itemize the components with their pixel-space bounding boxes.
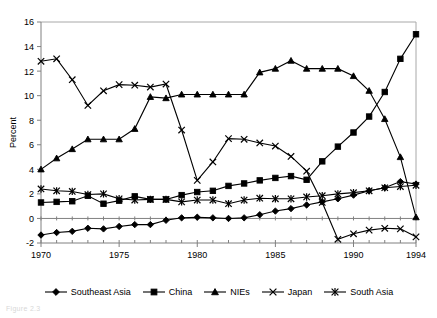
legend-item-south-asia[interactable]: South Asia xyxy=(323,286,393,298)
data-point-triangle xyxy=(382,116,388,122)
y-axis-tick-label: 14 xyxy=(24,42,34,52)
data-point-square xyxy=(179,192,184,197)
y-axis-tick-label: 8 xyxy=(29,116,34,126)
data-point-x xyxy=(194,177,200,183)
legend-label: South Asia xyxy=(350,287,393,297)
data-point-square xyxy=(241,181,246,186)
data-point-square xyxy=(38,200,43,205)
data-point-square xyxy=(398,56,403,61)
data-point-square xyxy=(413,32,418,37)
figure-caption: Figure 2.3 xyxy=(6,305,41,312)
data-point-square xyxy=(101,201,106,206)
figure-container: -20246810121416197019751980198519901994P… xyxy=(0,0,437,318)
data-point-triangle xyxy=(53,155,59,161)
data-point-diamond xyxy=(303,202,309,208)
legend-label: China xyxy=(169,287,193,297)
legend-symbol-triangle-icon xyxy=(203,286,227,298)
data-point-square xyxy=(257,178,262,183)
data-point-square xyxy=(273,175,278,180)
data-point-square xyxy=(70,199,75,204)
legend-item-southeast-asia[interactable]: Southeast Asia xyxy=(44,286,131,298)
data-point-square xyxy=(320,159,325,164)
data-point-diamond xyxy=(225,215,231,221)
data-point-square xyxy=(210,188,215,193)
data-point-diamond xyxy=(194,214,200,220)
data-point-x xyxy=(303,168,309,174)
data-point-diamond xyxy=(288,205,294,211)
x-axis-tick-label: 1975 xyxy=(109,250,129,260)
legend-symbol-star-icon xyxy=(323,286,347,298)
data-point-diamond xyxy=(210,215,216,221)
line-chart: -20246810121416197019751980198519901994P… xyxy=(0,0,437,318)
data-point-square xyxy=(366,114,371,119)
data-point-diamond xyxy=(116,223,122,229)
x-axis-tick-label: 1990 xyxy=(343,250,363,260)
data-point-triangle xyxy=(288,57,294,63)
data-point-x xyxy=(178,127,184,133)
x-axis-tick-label: 1980 xyxy=(187,250,207,260)
data-point-diamond xyxy=(272,208,278,214)
chart-legend: Southeast AsiaChinaNIEsJapanSouth Asia xyxy=(0,283,437,301)
data-point-square xyxy=(335,144,340,149)
data-point-square xyxy=(151,289,157,295)
data-point-square xyxy=(382,89,387,94)
y-axis-title: Percent xyxy=(8,116,18,148)
data-point-diamond xyxy=(132,221,138,227)
data-point-triangle xyxy=(350,73,356,79)
legend-symbol-square-icon xyxy=(142,286,166,298)
legend-item-japan[interactable]: Japan xyxy=(261,286,313,298)
y-axis-tick-label: 6 xyxy=(29,140,34,150)
data-point-square xyxy=(351,130,356,135)
data-point-square xyxy=(226,183,231,188)
y-axis-tick-label: -2 xyxy=(26,238,34,248)
data-point-diamond xyxy=(69,228,75,234)
data-point-triangle xyxy=(413,214,419,220)
data-point-triangle xyxy=(132,126,138,132)
y-axis-tick-label: 0 xyxy=(29,214,34,224)
data-point-diamond xyxy=(85,225,91,231)
legend-label: Japan xyxy=(288,287,313,297)
legend-label: NIEs xyxy=(230,287,250,297)
x-axis-tick-label: 1994 xyxy=(406,250,426,260)
data-point-square xyxy=(288,173,293,178)
data-point-diamond xyxy=(257,212,263,218)
data-point-square xyxy=(54,199,59,204)
data-point-triangle xyxy=(69,146,75,152)
data-point-diamond xyxy=(147,221,153,227)
x-axis-tick-label: 1985 xyxy=(265,250,285,260)
data-point-x xyxy=(288,153,294,159)
legend-item-nies[interactable]: NIEs xyxy=(203,286,250,298)
data-point-x xyxy=(210,159,216,165)
data-point-x xyxy=(69,77,75,83)
data-point-diamond xyxy=(241,215,247,221)
data-point-diamond xyxy=(53,229,59,235)
x-axis-tick-label: 1970 xyxy=(31,250,51,260)
data-point-diamond xyxy=(52,289,59,296)
y-axis-tick-label: 12 xyxy=(24,67,34,77)
data-point-diamond xyxy=(100,226,106,232)
legend-symbol-x-icon xyxy=(261,286,285,298)
y-axis-tick-label: 4 xyxy=(29,165,34,175)
legend-symbol-diamond-icon xyxy=(44,286,68,298)
y-axis-tick-label: 16 xyxy=(24,17,34,27)
y-axis-tick-label: 2 xyxy=(29,189,34,199)
legend-item-china[interactable]: China xyxy=(142,286,193,298)
data-point-square xyxy=(304,177,309,182)
data-point-diamond xyxy=(38,232,44,238)
data-point-diamond xyxy=(178,215,184,221)
data-point-triangle xyxy=(397,154,403,160)
legend-label: Southeast Asia xyxy=(71,287,131,297)
data-point-square xyxy=(195,189,200,194)
data-point-x xyxy=(100,88,106,94)
y-axis-tick-label: 10 xyxy=(24,91,34,101)
series-china xyxy=(38,32,418,207)
data-point-x xyxy=(85,102,91,108)
data-point-triangle xyxy=(272,65,278,71)
